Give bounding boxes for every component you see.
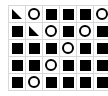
circle-icon [45,59,57,71]
board-cell[interactable] [43,57,60,74]
board-cell[interactable] [43,6,60,23]
board-cell[interactable] [77,57,94,74]
square-icon [29,43,40,54]
square-icon [63,77,74,88]
board-cell[interactable] [60,40,77,57]
triangle-icon [12,9,22,19]
board-cell[interactable] [26,23,43,40]
circle-icon [28,76,40,88]
board-cell[interactable] [77,6,94,23]
board-cell[interactable] [77,23,94,40]
square-icon [80,43,91,54]
board-cell[interactable] [9,74,26,91]
square-icon [63,26,74,37]
square-icon [63,60,74,71]
square-icon [29,60,40,71]
square-icon [80,60,91,71]
board-cell[interactable] [94,57,108,74]
board-cell[interactable] [43,74,60,91]
board-cell[interactable] [94,74,108,91]
circle-icon [96,8,108,20]
square-icon [97,77,108,88]
board-cell[interactable] [26,57,43,74]
triangle-icon [29,26,39,36]
board-cell[interactable] [94,6,108,23]
square-icon [12,60,23,71]
square-icon [46,43,57,54]
square-icon [63,9,74,20]
square-icon [97,26,108,37]
board-cell[interactable] [94,23,108,40]
circle-icon [79,25,91,37]
circle-icon [28,8,40,20]
board-cell[interactable] [60,57,77,74]
square-icon [12,77,23,88]
board-cell[interactable] [26,74,43,91]
board-cell[interactable] [43,23,60,40]
square-icon [46,9,57,20]
board-cell[interactable] [9,23,26,40]
board-cell[interactable] [9,57,26,74]
square-icon [12,43,23,54]
square-icon [80,9,91,20]
board-cell[interactable] [60,6,77,23]
square-icon [97,60,108,71]
board-cell[interactable] [77,40,94,57]
square-icon [97,43,108,54]
board-cell[interactable] [9,40,26,57]
square-icon [12,26,23,37]
board-cell[interactable] [9,6,26,23]
square-icon [46,77,57,88]
square-icon [80,77,91,88]
board-cell[interactable] [94,40,108,57]
board-cell[interactable] [26,40,43,57]
board-cell[interactable] [60,23,77,40]
board-cell[interactable] [43,40,60,57]
board-cell[interactable] [26,6,43,23]
board-cell[interactable] [77,74,94,91]
circle-icon [62,42,74,54]
game-board [8,5,108,91]
circle-icon [45,25,57,37]
board-cell[interactable] [60,74,77,91]
